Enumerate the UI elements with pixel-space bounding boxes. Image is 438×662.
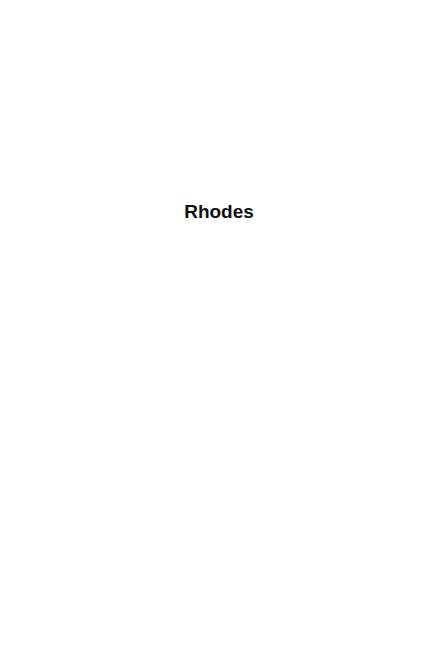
page-title: Rhodes (0, 200, 438, 224)
document-page: Rhodes (0, 0, 438, 662)
